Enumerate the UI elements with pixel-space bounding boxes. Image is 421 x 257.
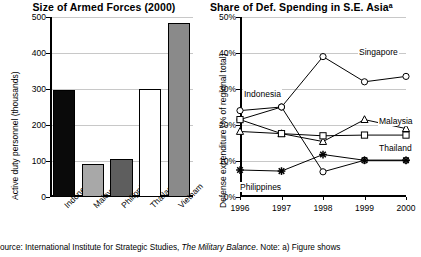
bar-chart-y-tick-label: 0 — [41, 192, 46, 202]
source-note-prefix: ource: International Institute for Strat… — [0, 243, 182, 252]
line-chart-plot-area: 0%10%20%30%40%50%19961997199819992000 — [240, 17, 406, 197]
series-annotation-thailand: Thailand — [378, 143, 413, 153]
line-chart-y-tick-label: 50% — [219, 12, 236, 22]
line-chart-y-tick-label: 30% — [219, 84, 236, 94]
source-note-suffix: . Note: a) Figure shows — [256, 243, 341, 252]
bar-chart-y-tick-label: 500 — [32, 12, 46, 22]
bar-chart-gridline — [50, 17, 193, 18]
bar-chart-y-tick-mark — [46, 197, 50, 198]
line-chart-y-tick-label: 20% — [219, 120, 236, 130]
line-chart-x-tick-label: 1998 — [314, 203, 333, 213]
bar-vietnam — [168, 23, 190, 197]
bar-chart-plot-area: 0100200300400500IndonesiaMalaysiaPhilipp… — [50, 17, 193, 197]
line-chart-series-layer — [240, 17, 406, 197]
bar-chart-panel: Size of Armed Forces (2000) Active duty … — [0, 0, 208, 236]
bar-chart-y-tick-label: 100 — [32, 156, 46, 166]
bar-chart-y-tick-label: 200 — [32, 120, 46, 130]
line-chart-y-axis-label: Defense expenditure (% of regional total… — [218, 53, 228, 208]
series-annotation-philippines: Philippines — [239, 182, 282, 192]
line-chart-y-tick-label: 40% — [219, 48, 236, 58]
bar-thailand — [139, 89, 161, 197]
line-chart-x-tick-mark — [406, 197, 407, 200]
line-chart-title: Share of Def. Spending in S.E. Asiaᵃ — [210, 1, 393, 13]
bar-indonesia — [53, 90, 75, 197]
line-chart-x-tick-mark — [323, 197, 324, 200]
series-annotation-singapore: Singapore — [358, 47, 399, 57]
bar-chart-y-axis — [50, 17, 52, 197]
figure-container: Size of Armed Forces (2000) Active duty … — [0, 0, 421, 257]
line-chart-x-tick-mark — [365, 197, 366, 200]
line-chart-y-tick-label: 10% — [219, 156, 236, 166]
source-note-publication: The Military Balance — [182, 243, 256, 252]
line-chart-x-tick-mark — [282, 197, 283, 200]
series-annotation-malaysia: Malaysia — [378, 116, 414, 126]
bar-chart-y-tick-label: 400 — [32, 48, 46, 58]
series-annotation-indonesia: Indonesia — [243, 89, 282, 99]
line-chart-x-tick-mark — [240, 197, 241, 200]
source-note: ource: International Institute for Strat… — [0, 243, 421, 252]
line-chart-y-tick-label: 0% — [224, 192, 236, 202]
line-chart-x-tick-label: 2000 — [397, 203, 416, 213]
bar-chart-y-axis-label: Active duty personnel (thousands) — [10, 71, 20, 200]
line-chart-x-tick-label: 1997 — [272, 203, 291, 213]
line-chart-x-tick-label: 1996 — [231, 203, 250, 213]
bar-chart-y-tick-label: 300 — [32, 84, 46, 94]
line-chart-x-tick-label: 1999 — [355, 203, 374, 213]
